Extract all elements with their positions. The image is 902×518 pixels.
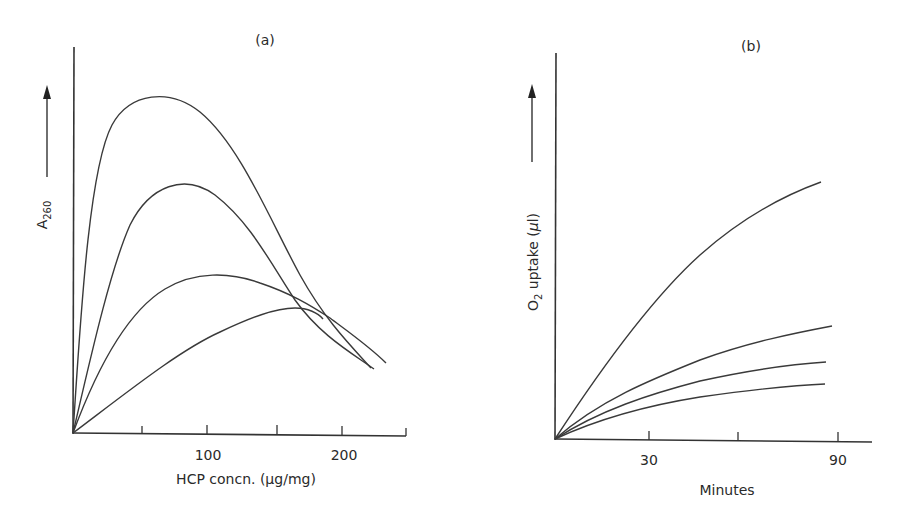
svg-text:A260: A260 <box>34 201 53 230</box>
panel-a-curve-3 <box>73 275 386 433</box>
svg-text:O2 uptake (μl): O2 uptake (μl) <box>525 213 544 311</box>
panel-a-ylabel: A260 <box>34 201 53 230</box>
panel-a-curve-1 <box>73 97 371 433</box>
panel-a-curve-2 <box>73 184 374 433</box>
panel-b-curve-3 <box>555 362 826 439</box>
panel-b: (b) O2 uptake (μl) 30 90 Minutes <box>525 38 872 498</box>
panel-a-ylabel-sub: 260 <box>42 201 53 220</box>
panel-a-ylabel-main: A <box>34 219 50 229</box>
panel-b-curve-4 <box>555 384 825 439</box>
panel-a-up-arrow-icon <box>43 85 51 177</box>
panel-b-xtick-label-30: 30 <box>640 452 658 468</box>
panel-b-y-axis <box>555 53 556 440</box>
panel-b-ylabel: O2 uptake (μl) <box>525 213 544 311</box>
panel-b-x-axis <box>555 439 872 442</box>
panel-a-xtick-label-100: 100 <box>195 447 222 463</box>
panel-b-up-arrow-icon <box>528 84 536 162</box>
panel-a: (a) A260 100 200 HCP concn. (μg/mg) <box>34 32 406 487</box>
panel-a-xlabel: HCP concn. (μg/mg) <box>176 471 316 487</box>
panel-b-title: (b) <box>741 38 761 54</box>
panel-b-xlabel: Minutes <box>699 482 754 498</box>
figure: (a) A260 100 200 HCP concn. (μg/mg) <box>0 0 902 518</box>
panel-a-y-axis <box>73 47 74 434</box>
panel-b-xtick-label-90: 90 <box>829 452 847 468</box>
panel-a-x-axis <box>73 433 406 436</box>
panel-b-curve-1 <box>555 182 821 439</box>
panel-a-curve-4 <box>73 308 323 433</box>
panel-a-title: (a) <box>255 32 275 48</box>
panel-a-xtick-label-200: 200 <box>331 447 358 463</box>
